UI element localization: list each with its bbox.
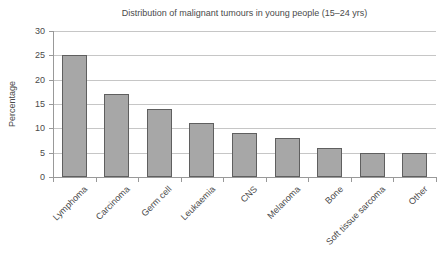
chart-title: Distribution of malignant tumours in you… (53, 8, 436, 18)
x-tick-mark (96, 178, 97, 182)
x-tick-mark (351, 178, 352, 182)
bar-leukaemia (189, 123, 214, 177)
x-tick-label: Germ cell (140, 184, 174, 218)
x-tick-mark (308, 178, 309, 182)
bar-bone (317, 148, 342, 177)
x-tick-mark (266, 178, 267, 182)
x-tick-label: Other (407, 184, 430, 207)
y-tick-label: 25 (21, 50, 45, 61)
y-tick-label: 10 (21, 123, 45, 134)
bar-chart: Distribution of malignant tumours in you… (0, 0, 445, 256)
y-axis-line (53, 31, 54, 178)
x-tick-label: CNS (239, 184, 260, 205)
bar-germ-cell (147, 109, 172, 177)
x-tick-label: Bone (323, 184, 345, 206)
bar-carcinoma (104, 94, 129, 177)
x-axis-line (53, 177, 437, 178)
gridline (54, 31, 436, 32)
y-axis-title: Percentage (7, 81, 17, 127)
y-tick-label: 0 (21, 172, 45, 183)
x-tick-mark (223, 178, 224, 182)
gridline (54, 55, 436, 56)
y-tick-mark (49, 128, 53, 129)
x-tick-mark (181, 178, 182, 182)
bar-cns (232, 133, 257, 177)
bar-other (402, 153, 427, 177)
x-tick-label: Melanoma (265, 184, 302, 221)
bar-melanoma (275, 138, 300, 177)
bar-lymphoma (62, 55, 87, 177)
x-tick-mark (53, 178, 54, 182)
y-tick-mark (49, 80, 53, 81)
y-tick-mark (49, 104, 53, 105)
x-tick-label: Lymphoma (51, 184, 89, 222)
x-tick-mark (436, 178, 437, 182)
y-tick-mark (49, 55, 53, 56)
bar-soft-tissue-sarcoma (360, 153, 385, 177)
y-tick-label: 5 (21, 148, 45, 159)
gridline (54, 80, 436, 81)
y-tick-mark (49, 153, 53, 154)
y-tick-label: 20 (21, 75, 45, 86)
y-tick-label: 30 (21, 26, 45, 37)
x-tick-mark (138, 178, 139, 182)
y-tick-label: 15 (21, 99, 45, 110)
x-tick-label: Carcinoma (94, 184, 132, 222)
x-tick-label: Leukaemia (179, 184, 217, 222)
x-tick-mark (393, 178, 394, 182)
y-tick-mark (49, 31, 53, 32)
